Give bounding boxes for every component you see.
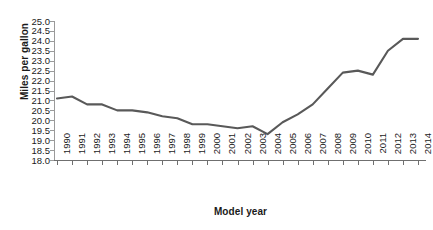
x-axis-tick-mark [147,161,148,165]
x-axis-tick-mark [87,161,88,165]
x-axis-tick-mark [192,161,193,165]
x-axis-tick-mark [207,161,208,165]
x-axis-tick-label: 1998 [181,133,192,167]
x-axis-tick-mark [222,161,223,165]
x-axis-tick-label: 2009 [347,133,358,167]
x-axis-tick-mark [358,161,359,165]
x-axis-tick-mark [298,161,299,165]
x-axis-tick-mark [388,161,389,165]
x-axis-tick-label: 2008 [332,133,343,167]
y-axis-tick-mark [50,91,54,92]
x-axis-tick-label: 1999 [196,133,207,167]
x-axis-tick-label: 2012 [392,133,403,167]
x-axis-tick-label: 1991 [76,133,87,167]
x-axis-tick-mark [343,161,344,165]
y-axis-tick-mark [50,41,54,42]
x-axis-tick-label: 2000 [211,133,222,167]
x-axis-tick-label: 1994 [121,133,132,167]
y-axis-tick-label: 22.0 [20,76,50,85]
y-axis-tick-mark [50,31,54,32]
y-axis-tick-label: 21.0 [20,96,50,105]
x-axis-tick-mark [117,161,118,165]
y-axis-tick-mark [50,71,54,72]
y-axis-tick-mark [50,140,54,141]
y-axis-tick-label: 21.5 [20,86,50,95]
series-miles-per-gallon [57,39,418,134]
x-axis-tick-label: 2013 [407,133,418,167]
y-axis-tick-label: 19.5 [20,126,50,135]
y-axis-tick-mark [50,61,54,62]
x-axis-tick-mark [328,161,329,165]
x-axis-tick-mark [373,161,374,165]
y-axis-tick-label: 23.5 [20,46,50,55]
y-axis-tick-label: 24.5 [20,26,50,35]
x-axis-tick-mark [132,161,133,165]
y-axis-tick-label: 23.0 [20,56,50,65]
x-axis-tick-label: 2010 [362,133,373,167]
y-axis-tick-label: 25.0 [20,17,50,26]
x-axis-tick-mark [253,161,254,165]
x-axis-tick-mark [418,161,419,165]
x-axis-tick-mark [313,161,314,165]
x-axis-tick-mark [72,161,73,165]
y-axis-tick-label: 22.5 [20,66,50,75]
x-axis-tick-label: 1993 [106,133,117,167]
y-axis-tick-mark [50,160,54,161]
x-axis-tick-mark [102,161,103,165]
y-axis-tick-mark [50,51,54,52]
y-axis-tick-label: 20.0 [20,116,50,125]
x-axis-tick-label: 2011 [377,133,388,167]
x-axis-title: Model year [55,206,426,217]
x-axis-tick-label: 1992 [91,133,102,167]
x-axis-tick-label: 1997 [166,133,177,167]
y-axis-tick-mark [50,81,54,82]
y-axis-tick-mark [50,130,54,131]
y-axis-tick-mark [50,21,54,22]
x-axis-tick-mark [403,161,404,165]
y-axis-tick-label: 24.0 [20,36,50,45]
x-axis-tick-label: 2005 [287,133,298,167]
x-axis-tick-mark [268,161,269,165]
x-axis-tick-label: 1990 [61,133,72,167]
y-axis-tick-mark [50,120,54,121]
x-axis-tick-label: 1996 [151,133,162,167]
x-axis-tick-mark [57,161,58,165]
y-axis-tick-label: 20.5 [20,106,50,115]
y-axis-tick-label: 18.0 [20,156,50,165]
y-axis-tick-mark [50,110,54,111]
x-axis-tick-label: 2003 [257,133,268,167]
x-axis-tick-label: 2002 [242,133,253,167]
x-axis-tick-label: 1995 [136,133,147,167]
x-axis-tick-label: 2004 [272,133,283,167]
x-axis-tick-label: 2007 [317,133,328,167]
x-axis-tick-mark [283,161,284,165]
x-axis-tick-mark [162,161,163,165]
x-axis-tick-label: 2001 [226,133,237,167]
x-axis-tick-mark [177,161,178,165]
y-axis-tick-label: 19.0 [20,136,50,145]
x-axis-tick-label: 2006 [302,133,313,167]
y-axis-tick-labels: 25.024.524.023.523.022.522.021.521.020.5… [20,16,50,162]
y-axis-tick-label: 18.5 [20,146,50,155]
x-axis-tick-mark [238,161,239,165]
y-axis-tick-mark [50,150,54,151]
y-axis-tick-mark [50,100,54,101]
x-axis-tick-label: 2014 [422,133,433,167]
line-chart: Miles per gallon 25.024.524.023.523.022.… [0,0,433,230]
